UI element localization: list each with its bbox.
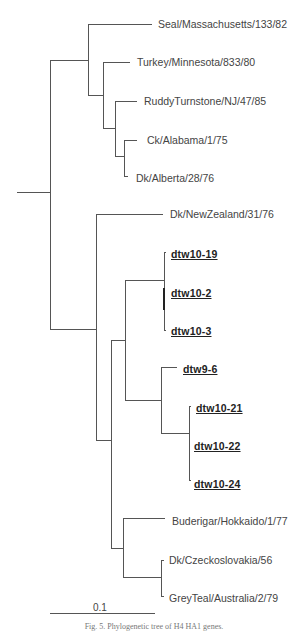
leaf-label: dtw9-6 <box>183 363 217 375</box>
figure-caption: Fig. 5. Phylogenetic tree of H4 HA1 gene… <box>0 622 308 631</box>
leaf-label: dtw10-24 <box>194 478 241 490</box>
leaf-label: Buderigar/Hokkaido/1/77 <box>172 515 288 527</box>
leaf-label: Seal/Massachusetts/133/82 <box>158 18 287 30</box>
leaf-label: dtw10-2 <box>171 287 212 299</box>
scale-bar-label: 0.1 <box>93 602 107 613</box>
leaf-label: dtw10-22 <box>194 440 241 452</box>
leaf-label: GreyTeal/Australia/2/79 <box>169 592 278 604</box>
leaf-label: dtw10-21 <box>196 402 243 414</box>
leaf-label: Turkey/Minnesota/833/80 <box>137 56 255 68</box>
leaf-label: dtw10-19 <box>171 248 218 260</box>
leaf-label: dtw10-3 <box>171 325 212 337</box>
leaf-label: Ck/Alabama/1/75 <box>147 134 228 146</box>
leaf-label: RuddyTurnstone/NJ/47/85 <box>144 95 266 107</box>
tree-branches <box>17 24 191 596</box>
leaf-label: Dk/Czeckoslovakia/56 <box>169 554 272 566</box>
leaf-label: Dk/Alberta/28/76 <box>136 172 214 184</box>
leaf-label: Dk/NewZealand/31/76 <box>170 208 274 220</box>
